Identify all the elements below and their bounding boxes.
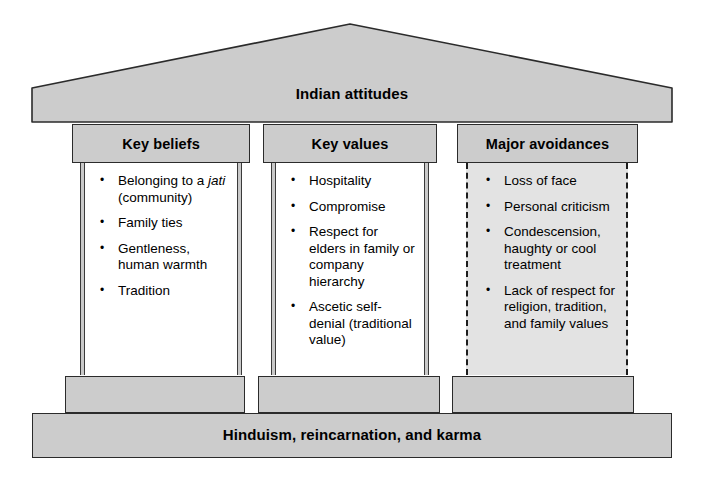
bullet-list-key-beliefs: Belonging to a jati (community)Family ti…	[96, 173, 230, 308]
shaft-edge-left	[80, 163, 85, 375]
base-plinth: Hinduism, reincarnation, and karma	[32, 413, 672, 458]
shaft-edge-right	[237, 163, 242, 375]
bullet-item: Respect for elders in family or company …	[287, 224, 417, 290]
bullet-item: Condescension, haughty or cool treatment	[482, 224, 616, 274]
column-shaft-key-values: HospitalityCompromiseRespect for elders …	[271, 163, 429, 375]
temple-diagram: Indian attitudes Key beliefs Belonging t…	[0, 0, 703, 483]
italic-term: jati	[208, 173, 225, 188]
shaft-edge-right	[424, 163, 429, 375]
bullet-item: Hospitality	[287, 173, 417, 190]
bullet-list-major-avoidances: Loss of facePersonal criticismCondescens…	[482, 173, 616, 341]
column-shaft-major-avoidances: Loss of facePersonal criticismCondescens…	[466, 163, 628, 375]
bullet-item: Gentleness, human warmth	[96, 241, 230, 274]
bullet-item: Personal criticism	[482, 199, 616, 216]
shaft-edge-left	[271, 163, 276, 375]
column-heading-key-beliefs: Key beliefs	[72, 124, 250, 163]
base-label: Hinduism, reincarnation, and karma	[33, 414, 671, 456]
bullet-item: Compromise	[287, 199, 417, 216]
roof-title: Indian attitudes	[32, 79, 672, 109]
column-heading-key-values: Key values	[263, 124, 437, 163]
shaft-edge-left-dashed	[466, 163, 468, 375]
pedestal-major-avoidances	[452, 376, 634, 413]
bullet-item: Belonging to a jati (community)	[96, 173, 230, 206]
pedestal-key-beliefs	[65, 376, 245, 413]
bullet-item: Lack of respect for religion, tradition,…	[482, 283, 616, 333]
bullet-item: Tradition	[96, 283, 230, 300]
bullet-item: Ascetic self-denial (traditional value)	[287, 299, 417, 349]
pedestal-key-values	[258, 376, 440, 413]
roof-shape	[0, 0, 703, 130]
column-heading-major-avoidances: Major avoidances	[457, 124, 638, 163]
shaft-edge-right-dashed	[626, 163, 628, 375]
column-shaft-key-beliefs: Belonging to a jati (community)Family ti…	[80, 163, 242, 375]
bullet-item: Loss of face	[482, 173, 616, 190]
bullet-list-key-values: HospitalityCompromiseRespect for elders …	[287, 173, 417, 358]
bullet-item: Family ties	[96, 215, 230, 232]
